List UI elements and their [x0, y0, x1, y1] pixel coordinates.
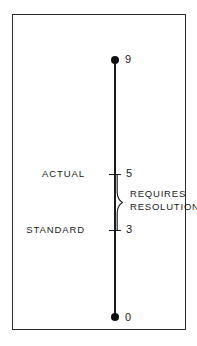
tick-value-standard: 3 [126, 224, 133, 235]
tick-label-actual: ACTUAL [42, 169, 85, 179]
scale-bottom-value: 0 [125, 312, 132, 323]
diagram-canvas: 9 0 ACTUAL 5 STANDARD 3 REQUIRES RESOLUT… [0, 0, 197, 346]
curly-brace-icon [116, 174, 126, 231]
scale-top-value: 9 [125, 54, 132, 65]
tick-value-actual: 5 [126, 168, 133, 179]
diagram-frame: 9 0 ACTUAL 5 STANDARD 3 REQUIRES RESOLUT… [12, 14, 186, 330]
scale-bottom-dot [111, 313, 119, 321]
annotation-line-2: RESOLUTION [130, 200, 197, 213]
tick-label-standard: STANDARD [26, 225, 85, 235]
annotation-line-1: REQUIRES [130, 187, 197, 200]
annotation-requires-resolution: REQUIRES RESOLUTION [130, 187, 197, 213]
scale-top-dot [111, 56, 119, 64]
